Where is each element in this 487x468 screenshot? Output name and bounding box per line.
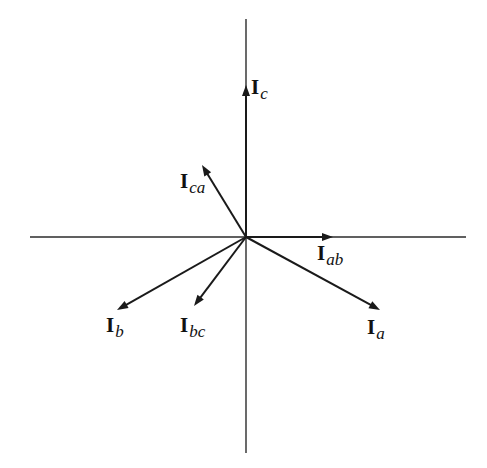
arrowhead-icon	[322, 233, 333, 241]
label-ia: Ia	[367, 317, 385, 338]
vector-ib-line	[125, 237, 246, 306]
vector-ibc-line	[199, 237, 246, 299]
label-ibc: Ibc	[180, 315, 205, 336]
arrowhead-icon	[368, 301, 380, 310]
label-main: I	[367, 315, 375, 339]
vector-group	[117, 85, 380, 310]
arrowhead-icon	[242, 85, 250, 96]
label-main: I	[106, 313, 114, 337]
label-subscript: ab	[326, 250, 343, 269]
diagram-canvas	[0, 0, 487, 468]
label-subscript: a	[376, 324, 385, 343]
label-ib: Ib	[106, 315, 124, 336]
vector-ica-line	[207, 173, 246, 237]
label-subscript: ca	[189, 178, 205, 197]
label-iab: Iab	[317, 243, 343, 264]
label-main: I	[317, 241, 325, 265]
label-subscript: c	[260, 84, 268, 103]
label-subscript: b	[115, 322, 124, 341]
label-main: I	[180, 169, 188, 193]
label-ica: Ica	[180, 171, 205, 192]
phasor-diagram: Ic Ica Iab Ia Ib Ibc	[0, 0, 487, 468]
label-main: I	[180, 313, 188, 337]
label-ic: Ic	[251, 77, 268, 98]
vector-ia-line	[246, 237, 372, 306]
label-main: I	[251, 75, 259, 99]
label-subscript: bc	[189, 322, 205, 341]
arrowhead-icon	[117, 301, 129, 310]
